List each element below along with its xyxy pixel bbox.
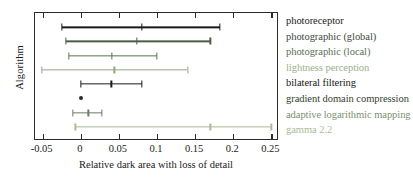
legend-item-5: gradient domain compression <box>286 91 413 107</box>
error-bar-cap <box>65 38 66 45</box>
legend-item-6: adaptive logarithmic mapping <box>286 107 413 123</box>
error-bar-cap <box>156 52 157 59</box>
error-bar-row <box>35 92 277 104</box>
error-bar-cap <box>187 66 188 73</box>
error-bar-cap <box>271 123 272 130</box>
x-tick-label: 0.15 <box>185 143 203 154</box>
legend-item-0: photoreceptor <box>286 13 413 29</box>
x-tick-bottom <box>157 134 158 139</box>
error-bar-midpoint <box>210 123 211 130</box>
legend: photoreceptorphotographic (global)photog… <box>286 13 413 138</box>
error-bar-cap <box>75 123 76 130</box>
x-tick-bottom <box>195 134 196 139</box>
chart-figure: Algorithm -0.0500.050.10.150.20.25 Relat… <box>0 0 413 178</box>
error-bar-row <box>35 78 277 90</box>
legend-item-3: lightness perception <box>286 60 413 76</box>
error-bar-line <box>66 41 211 42</box>
x-tick-label: 0.25 <box>261 143 279 154</box>
legend-item-1: photographic (global) <box>286 29 413 45</box>
x-tick-label: 0.1 <box>149 143 162 154</box>
error-bar-cap <box>219 24 220 31</box>
x-tick-label: 0.2 <box>226 143 239 154</box>
data-point-marker <box>79 96 83 100</box>
x-tick-bottom <box>43 134 44 139</box>
error-bar-row <box>35 50 277 62</box>
error-bar-cap <box>210 38 211 45</box>
error-bar-row <box>35 121 277 133</box>
error-bar-line <box>69 55 157 56</box>
error-bar-midpoint <box>137 38 138 45</box>
legend-item-2: photographic (local) <box>286 44 413 60</box>
plot-frame <box>34 12 278 140</box>
x-tick-top <box>195 13 196 18</box>
x-tick-top <box>233 13 234 18</box>
error-bar-cap <box>80 81 81 88</box>
x-axis-title: Relative dark area with loss of detail <box>34 159 278 170</box>
x-tick-top <box>81 13 82 18</box>
x-tick-top <box>43 13 44 18</box>
error-bar-midpoint <box>141 24 142 31</box>
x-tick-bottom <box>81 134 82 139</box>
error-bar-row <box>35 21 277 33</box>
error-bar-row <box>35 64 277 76</box>
error-bar-line <box>75 126 271 127</box>
error-bar-cap <box>101 109 102 116</box>
error-bar-midpoint <box>114 66 115 73</box>
x-tick-bottom <box>119 134 120 139</box>
x-tick-top <box>271 13 272 18</box>
error-bar-row <box>35 35 277 47</box>
error-bar-midpoint <box>111 52 112 59</box>
error-bar-cap <box>72 109 73 116</box>
y-axis-title: Algorithm <box>14 28 25 108</box>
error-bar-midpoint <box>111 81 112 88</box>
error-bar-cap <box>68 52 69 59</box>
error-bar-row <box>35 107 277 119</box>
x-tick-label: 0.05 <box>109 143 127 154</box>
x-tick-bottom <box>233 134 234 139</box>
error-bar-midpoint <box>88 109 89 116</box>
x-tick-label: -0.05 <box>31 143 53 154</box>
plot-surface <box>35 13 277 139</box>
error-bar-cap <box>41 66 42 73</box>
x-tick-top <box>157 13 158 18</box>
error-bar-cap <box>61 24 62 31</box>
error-bar-cap <box>141 81 142 88</box>
x-tick-top <box>119 13 120 18</box>
legend-item-7: gamma 2.2 <box>286 122 413 138</box>
legend-item-4: bilateral filtering <box>286 75 413 91</box>
x-tick-bottom <box>271 134 272 139</box>
x-tick-label: 0 <box>77 143 82 154</box>
